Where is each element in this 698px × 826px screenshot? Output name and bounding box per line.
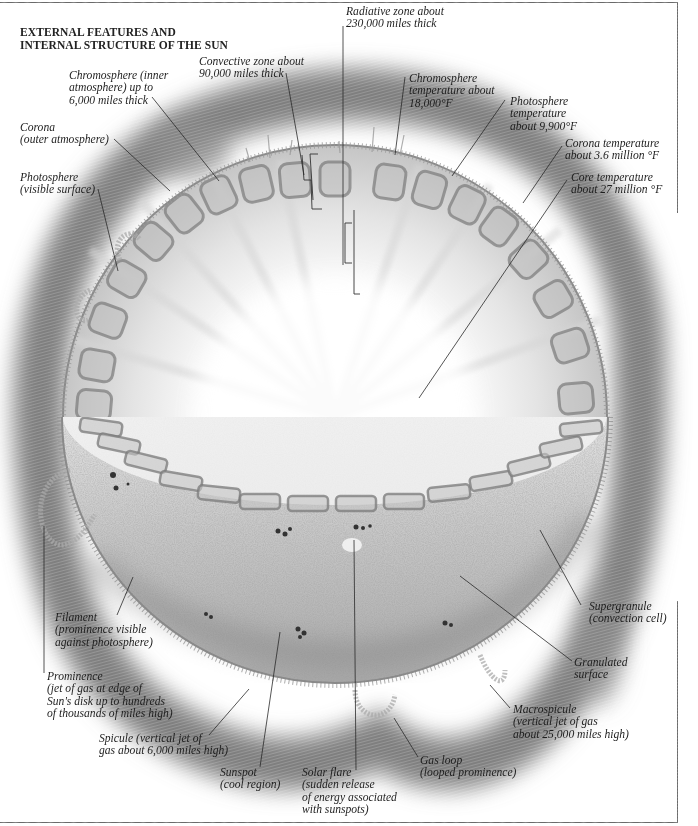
label-gas-loop: Gas loop(looped prominence)	[420, 755, 516, 780]
label-corona: Corona(outer atmosphere)	[20, 122, 109, 147]
label-chromosphere-temperature: Chromospheretemperature about18,000°F	[409, 73, 495, 110]
label-sunspot: Sunspot(cool region)	[220, 767, 280, 792]
label-core-temperature: Core temperatureabout 27 million °F	[571, 172, 662, 197]
label-radiative-zone: Radiative zone about230,000 miles thick	[346, 6, 444, 31]
label-photosphere-temperature: Photospheretemperatureabout 9,900°F	[510, 96, 577, 133]
solar-flare-spot	[342, 538, 362, 552]
label-spicule: Spicule (vertical jet ofgas about 6,000 …	[99, 733, 228, 758]
label-supergranule: Supergranule(convection cell)	[589, 601, 667, 626]
label-chromosphere: Chromosphere (inneratmosphere) up to6,00…	[69, 70, 168, 107]
sun-diagram: EXTERNAL FEATURES AND INTERNAL STRUCTURE…	[0, 0, 698, 826]
label-prominence: Prominence(jet of gas at edge ofSun's di…	[47, 671, 173, 721]
title-line-1: EXTERNAL FEATURES AND	[20, 26, 228, 39]
diagram-title: EXTERNAL FEATURES AND INTERNAL STRUCTURE…	[20, 26, 228, 51]
label-macrospicule: Macrospicule(vertical jet of gasabout 25…	[513, 704, 629, 741]
label-convective-zone: Convective zone about90,000 miles thick	[199, 56, 304, 81]
label-corona-temperature: Corona temperatureabout 3.6 million °F	[565, 138, 659, 163]
label-photosphere: Photosphere(visible surface)	[20, 172, 95, 197]
label-filament: Filament(prominence visibleagainst photo…	[55, 612, 153, 649]
label-solar-flare: Solar flare(sudden releaseof energy asso…	[302, 767, 397, 817]
title-line-2: INTERNAL STRUCTURE OF THE SUN	[20, 39, 228, 52]
label-granulated-surface: Granulatedsurface	[574, 657, 627, 682]
